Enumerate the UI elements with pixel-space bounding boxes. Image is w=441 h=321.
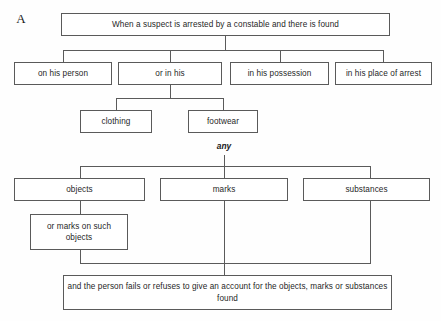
connector-drop-footwear (223, 98, 224, 110)
connector-level3-bus (80, 166, 370, 167)
connector-drop-clothing (116, 98, 117, 110)
node-objects: objects (14, 178, 145, 201)
node-in-his-place-of-arrest: in his place of arrest (335, 62, 432, 85)
connector-drop-on-his-person (63, 50, 64, 62)
connector-substances-down (370, 201, 371, 263)
connector-drop-in-his-possession (280, 50, 281, 62)
connector-drop-objects (80, 166, 81, 178)
connector-objects-to-or-marks (80, 201, 81, 214)
node-in-his-possession: in his possession (230, 62, 329, 85)
any-qualifier-label: any (192, 139, 256, 153)
connector-or-in-his-stem (170, 85, 171, 98)
node-conclusion: and the person fails or refuses to give … (63, 275, 392, 310)
connector-drop-marks (224, 166, 225, 178)
node-substances: substances (303, 178, 430, 201)
flowchart-diagram: A When a suspect is arrested by a consta… (0, 0, 441, 321)
connector-drop-substances (370, 166, 371, 178)
node-marks: marks (160, 178, 288, 201)
connector-root-stem (225, 36, 226, 50)
node-footwear: footwear (188, 110, 258, 133)
connector-conclusion-bus (80, 263, 371, 264)
node-clothing: clothing (80, 110, 152, 133)
connector-drop-in-his-place-of-arrest (383, 50, 384, 62)
node-or-in-his: or in his (118, 62, 222, 85)
connector-level2-bus (116, 98, 224, 99)
connector-level1-bus (63, 50, 383, 51)
node-on-his-person: on his person (14, 62, 112, 85)
connector-or-marks-down (80, 250, 81, 263)
connector-any-stem (224, 155, 225, 166)
node-root-statement: When a suspect is arrested by a constabl… (61, 13, 390, 36)
panel-letter: A (10, 10, 32, 28)
connector-drop-or-in-his (170, 50, 171, 62)
node-or-marks-on-such-objects: or marks on such objects (30, 214, 128, 250)
